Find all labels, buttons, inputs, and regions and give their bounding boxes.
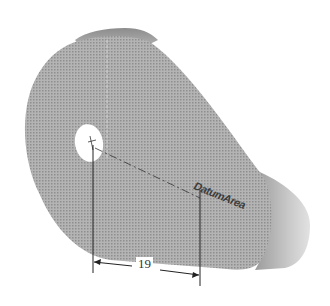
- cad-figure: DatumArea 19: [0, 0, 330, 306]
- part-front-face: [25, 36, 272, 270]
- part-illustration: [0, 0, 330, 306]
- arrow-right: [192, 272, 199, 278]
- dimension-value: 19: [136, 257, 153, 271]
- arrow-left: [94, 259, 101, 265]
